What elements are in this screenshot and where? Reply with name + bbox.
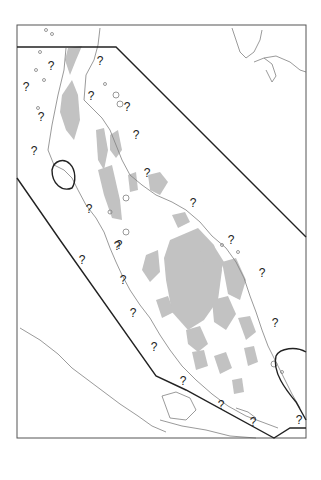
boundary-loop-east bbox=[275, 349, 306, 420]
question-mark-label: ? bbox=[86, 203, 93, 215]
question-mark-label: ? bbox=[218, 399, 225, 411]
question-mark-label: ? bbox=[31, 145, 38, 157]
question-mark-label: ? bbox=[180, 375, 187, 387]
study-area-boundary bbox=[17, 47, 306, 237]
question-mark-label: ? bbox=[190, 197, 197, 209]
map-frame bbox=[17, 25, 306, 438]
question-mark-label: ? bbox=[124, 101, 131, 113]
question-mark-label: ? bbox=[48, 60, 55, 72]
question-mark-label: ? bbox=[228, 234, 235, 246]
question-mark-label: ? bbox=[97, 55, 104, 67]
question-mark-label: ? bbox=[88, 90, 95, 102]
question-mark-label: ? bbox=[114, 240, 121, 252]
question-mark-label: ? bbox=[250, 416, 257, 428]
question-mark-label: ? bbox=[296, 414, 303, 426]
question-mark-label: ? bbox=[79, 254, 86, 266]
question-mark-label: ? bbox=[259, 267, 266, 279]
question-mark-label: ? bbox=[23, 81, 30, 93]
coastlines bbox=[20, 28, 306, 438]
question-mark-label: ? bbox=[272, 317, 279, 329]
question-mark-label: ? bbox=[120, 274, 127, 286]
question-mark-label: ? bbox=[38, 111, 45, 123]
question-mark-label: ? bbox=[130, 307, 137, 319]
question-mark-label: ? bbox=[151, 341, 158, 353]
question-mark-label: ? bbox=[144, 167, 151, 179]
boundary-loop-west bbox=[52, 161, 75, 189]
question-mark-label: ? bbox=[133, 129, 140, 141]
